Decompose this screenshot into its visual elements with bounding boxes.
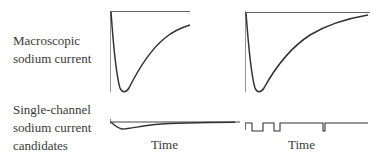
left-macroscopic-trace — [111, 12, 190, 92]
sodium-current-diagram — [0, 0, 380, 158]
left-single-channel-panel — [110, 119, 240, 129]
right-x-axis-label: Time — [288, 137, 315, 153]
left-macroscopic-panel — [110, 11, 190, 92]
right-single-channel-panel — [245, 123, 368, 131]
left-x-axis-label: Time — [151, 137, 178, 153]
right-single-channel-trace — [245, 123, 368, 131]
left-single-channel-trace — [111, 122, 235, 129]
right-macroscopic-trace — [246, 13, 368, 92]
right-macroscopic-panel — [245, 11, 370, 92]
